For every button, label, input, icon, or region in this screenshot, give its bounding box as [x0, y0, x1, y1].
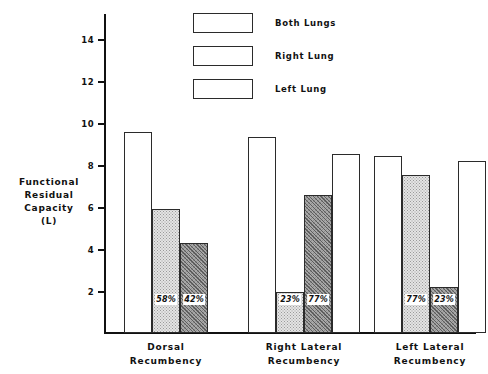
chart-root: Functional Residual Capacity (L) 2468101… — [0, 0, 488, 374]
y-axis-tick-label-10: 10 — [81, 119, 94, 129]
legend-label: Both Lungs — [275, 18, 336, 28]
x-axis-label-group-2: Left LateralRecumbency — [370, 340, 488, 368]
y-axis-tick-8: 8 — [98, 165, 105, 167]
legend-swatch-stipple — [193, 46, 253, 66]
bar-percent-label: 77% — [405, 294, 427, 305]
y-axis-tick-label-12: 12 — [81, 77, 94, 87]
x-axis-label-line-0: Dorsal — [106, 340, 226, 354]
bar-percent-label: 77% — [307, 294, 329, 305]
bar-g1-3 — [332, 154, 360, 333]
x-axis-label-line-0: Right Lateral — [244, 340, 364, 354]
bar-percent-label: 23% — [433, 294, 455, 305]
y-axis-tick-4: 4 — [98, 249, 105, 251]
x-axis-label-group-0: DorsalRecumbency — [106, 340, 226, 368]
legend-item-2[interactable]: Left Lung — [193, 78, 373, 100]
bar-g2-3 — [458, 161, 486, 333]
bar-g1-2 — [304, 195, 332, 334]
x-axis-label-line-1: Recumbency — [244, 354, 364, 368]
x-axis-label-line-1: Recumbency — [106, 354, 226, 368]
legend-swatch-none — [193, 13, 253, 33]
y-axis-tick-label-2: 2 — [88, 287, 94, 297]
legend-item-0[interactable]: Both Lungs — [193, 12, 373, 34]
bar-percent-label: 58% — [155, 294, 177, 305]
y-axis-tick-label-14: 14 — [81, 35, 94, 45]
bar-g2-0 — [374, 156, 402, 333]
bar-g1-0 — [248, 137, 276, 333]
legend: Both LungsRight LungLeft Lung — [193, 12, 373, 111]
y-axis-title-line-1: Functional — [2, 176, 96, 189]
y-axis-tick-14: 14 — [98, 39, 105, 41]
y-axis-tick-2: 2 — [98, 291, 105, 293]
legend-label: Right Lung — [275, 51, 334, 61]
legend-label: Left Lung — [275, 84, 327, 94]
bar-percent-label: 23% — [279, 294, 301, 305]
y-axis-tick-10: 10 — [98, 123, 105, 125]
bar-g2-1 — [402, 175, 430, 333]
bar-g0-2 — [180, 243, 208, 333]
y-axis-tick-12: 12 — [98, 81, 105, 83]
bar-percent-label: 42% — [183, 294, 205, 305]
y-axis-tick-label-4: 4 — [88, 245, 94, 255]
legend-swatch-hatch — [193, 79, 253, 99]
y-axis-tick-6: 6 — [98, 207, 105, 209]
bar-g0-0 — [124, 132, 152, 333]
y-axis-tick-label-8: 8 — [88, 161, 94, 171]
x-axis-label-line-0: Left Lateral — [370, 340, 488, 354]
bar-g0-1 — [152, 209, 180, 333]
x-axis-label-line-1: Recumbency — [370, 354, 488, 368]
y-axis-tick-label-6: 6 — [88, 203, 94, 213]
y-axis-title: Functional Residual Capacity (L) — [2, 176, 96, 228]
y-axis-title-line-3: Capacity — [2, 202, 96, 215]
y-axis-title-line-2: Residual — [2, 189, 96, 202]
x-axis-label-group-1: Right LateralRecumbency — [244, 340, 364, 368]
legend-item-1[interactable]: Right Lung — [193, 45, 373, 67]
y-axis-title-line-4: (L) — [2, 215, 96, 228]
